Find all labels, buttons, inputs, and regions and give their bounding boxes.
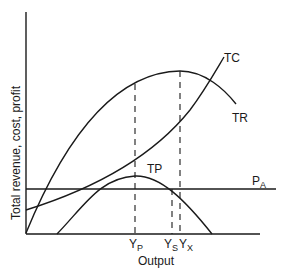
yp-label-main: Y [129, 237, 137, 251]
tc-curve [26, 57, 224, 210]
pa-label-main: P [252, 174, 260, 188]
chart-svg: TC TR TP PA YP YS YX Output Total revenu… [0, 0, 285, 275]
pa-label: PA [252, 174, 266, 190]
ys-label-main: Y [164, 237, 172, 251]
tc-label: TC [224, 51, 240, 65]
chart-figure: TC TR TP PA YP YS YX Output Total revenu… [0, 0, 285, 275]
pa-label-sub: A [260, 180, 266, 190]
tr-curve [26, 71, 236, 233]
ys-label: YS [164, 237, 178, 253]
yx-label: YX [179, 237, 193, 253]
ys-label-sub: S [172, 243, 178, 253]
x-axis-title: Output [138, 254, 175, 268]
tp-label: TP [147, 162, 162, 176]
tr-label: TR [232, 111, 248, 125]
yx-label-sub: X [187, 243, 193, 253]
yx-label-main: Y [179, 237, 187, 251]
y-axis-title: Total revenue, cost, profit [9, 85, 23, 220]
yp-label-sub: P [137, 243, 143, 253]
yp-label: YP [129, 237, 143, 253]
